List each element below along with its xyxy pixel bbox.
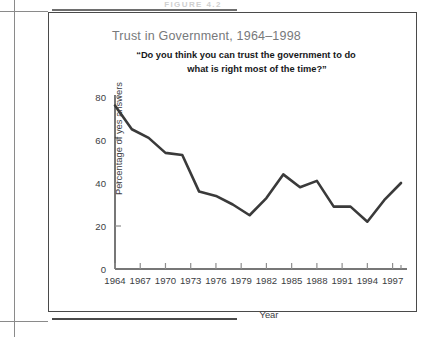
svg-text:40: 40 [95, 178, 106, 189]
svg-text:1967: 1967 [130, 275, 151, 286]
figure-bottom-divider [52, 318, 237, 320]
page-gutter-rule [14, 0, 15, 337]
y-axis-tick-labels: 020406080 [95, 92, 106, 275]
svg-text:1982: 1982 [256, 275, 277, 286]
svg-text:1997: 1997 [382, 275, 403, 286]
svg-text:1991: 1991 [331, 275, 352, 286]
svg-text:1970: 1970 [155, 275, 176, 286]
chart-axes [115, 95, 407, 269]
x-axis-tick-labels: 1964196719701973197619791982198519881991… [104, 275, 403, 286]
line-chart-plot: 020406080 196419671970197319761979198219… [49, 13, 418, 311]
figure-page: FIGURE 4.2 Trust in Government, 1964–199… [0, 0, 446, 337]
svg-text:1964: 1964 [104, 275, 126, 286]
svg-text:80: 80 [95, 92, 106, 103]
svg-text:20: 20 [95, 221, 106, 232]
figure-label-divider [52, 9, 237, 11]
svg-text:0: 0 [101, 264, 106, 275]
svg-text:1973: 1973 [180, 275, 201, 286]
figure-frame: Trust in Government, 1964–1998 “Do you t… [48, 12, 417, 312]
page-bottom-rule [0, 321, 48, 322]
y-axis-title: Percentage of yes answers [113, 64, 124, 214]
svg-text:1988: 1988 [306, 275, 327, 286]
svg-text:1994: 1994 [357, 275, 379, 286]
page-top-rule [0, 11, 48, 12]
data-series-line [115, 106, 401, 222]
chart-tick-marks [115, 97, 401, 269]
svg-text:1976: 1976 [205, 275, 226, 286]
svg-text:1985: 1985 [281, 275, 302, 286]
svg-text:1979: 1979 [231, 275, 252, 286]
figure-number-label: FIGURE 4.2 [118, 0, 268, 9]
svg-text:60: 60 [95, 135, 106, 146]
